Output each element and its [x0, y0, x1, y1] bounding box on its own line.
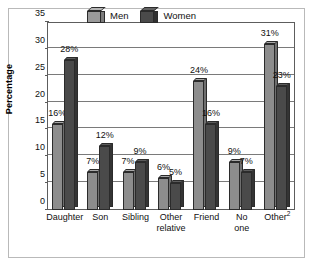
y-axis-tick-label: 20 — [23, 90, 45, 99]
y-axis-tick-label: 10 — [23, 143, 45, 152]
cube-icon-dark — [140, 7, 159, 23]
y-axis-tick-label: 0 — [23, 197, 45, 206]
legend-entry-women: Women — [140, 7, 196, 23]
y-axis-tick-label: 35 — [23, 9, 45, 18]
x-axis-tick-label: Other2 — [254, 212, 301, 223]
cube-side — [154, 11, 158, 23]
y-axis-title: Percentage — [4, 49, 14, 129]
cube-front — [140, 11, 154, 23]
x-axis-category-6: Other2 — [254, 212, 301, 223]
plot-area — [47, 22, 295, 210]
x-axis-tick-label: one — [218, 223, 265, 234]
y-axis-tick-label: 30 — [23, 36, 45, 45]
x-axis-tick-label: relative — [147, 223, 194, 234]
gridline — [48, 154, 294, 155]
x-axis: DaughterSonSiblingOtherrelativeFriendNoo… — [47, 212, 295, 252]
chart-legend: MenWomen — [87, 5, 196, 25]
legend-entry-men: Men — [87, 7, 128, 23]
gridline — [48, 47, 294, 48]
gridline — [48, 74, 294, 75]
chart-figure: Percentage 05101520253035 16%28%7%12%7%9… — [0, 0, 313, 266]
legend-label: Women — [163, 10, 196, 21]
cube-icon-light — [87, 7, 106, 23]
y-axis-tick-label: 15 — [23, 116, 45, 125]
cube-side — [101, 11, 105, 23]
cube-front — [87, 11, 101, 23]
y-axis-tick-label: 25 — [23, 63, 45, 72]
y-axis-tick-label: 5 — [23, 170, 45, 179]
legend-label: Men — [110, 10, 128, 21]
gridline — [48, 127, 294, 128]
gridline — [48, 101, 294, 102]
gridline — [48, 181, 294, 182]
y-axis: 05101520253035 — [19, 22, 45, 210]
